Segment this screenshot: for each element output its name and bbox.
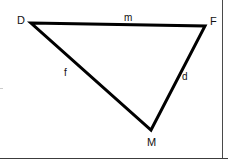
page-edge-mark-left <box>0 88 3 89</box>
side-label-m: m <box>124 12 132 23</box>
triangle-figure <box>0 0 228 161</box>
vertex-label-d: D <box>17 15 25 26</box>
side-label-d: d <box>182 71 188 82</box>
diagram-canvas: D F M m f d <box>0 0 228 161</box>
side-label-f: f <box>64 67 67 78</box>
page-border-right <box>222 0 223 158</box>
vertex-label-m: M <box>147 137 156 148</box>
triangle-outline <box>31 23 205 130</box>
vertex-label-f: F <box>210 16 217 27</box>
page-border-bottom <box>0 158 228 159</box>
